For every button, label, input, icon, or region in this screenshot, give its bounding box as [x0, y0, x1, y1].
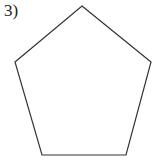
pentagon-shape: [15, 6, 151, 155]
pentagon-figure: [0, 0, 154, 163]
